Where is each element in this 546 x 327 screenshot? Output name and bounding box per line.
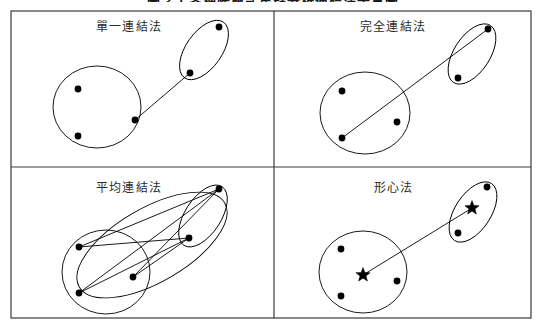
- cluster-outline-a-average-linkage: [62, 230, 150, 314]
- data-point-a-single-linkage: [75, 133, 82, 140]
- panel-label-centroid-method: 形心法: [374, 178, 414, 196]
- data-point-b-average-linkage: [186, 235, 193, 242]
- cluster-outline-a-complete-linkage: [320, 72, 410, 154]
- data-point-b-single-linkage: [187, 70, 194, 77]
- data-point-a-average-linkage: [76, 290, 83, 297]
- data-point-b-complete-linkage: [455, 75, 462, 82]
- data-point-a-single-linkage: [132, 117, 139, 124]
- data-point-b-single-linkage: [216, 24, 223, 31]
- panel-label-average-linkage: 平均連結法: [96, 178, 162, 196]
- data-point-b-centroid-method: [455, 230, 462, 237]
- data-point-b-centroid-method: [484, 184, 491, 191]
- data-point-a-centroid-method: [338, 246, 345, 253]
- data-point-a-complete-linkage: [339, 88, 346, 95]
- linkage-line-single-linkage: [135, 73, 190, 120]
- data-point-a-average-linkage: [130, 274, 137, 281]
- data-point-b-average-linkage: [216, 186, 223, 193]
- data-point-a-centroid-method: [394, 278, 401, 285]
- panel-label-complete-linkage: 完全連結法: [360, 17, 426, 35]
- cluster-outline-b-single-linkage: [170, 12, 238, 88]
- cluster-outline-a-single-linkage: [53, 66, 141, 148]
- linkage-line-average-linkage: [133, 189, 219, 277]
- data-point-a-complete-linkage: [339, 135, 346, 142]
- centroid-star-marker: [356, 268, 370, 282]
- figure-outer-frame: [11, 11, 531, 318]
- centroid-star-marker: [465, 201, 479, 215]
- linkage-line-complete-linkage: [342, 29, 488, 138]
- linkage-line-average-linkage: [79, 238, 189, 293]
- data-point-b-complete-linkage: [485, 26, 492, 33]
- data-point-a-centroid-method: [338, 293, 345, 300]
- data-point-a-complete-linkage: [394, 119, 401, 126]
- linkage-line-average-linkage: [79, 189, 219, 247]
- cluster-outline-b-complete-linkage: [438, 16, 505, 93]
- linkage-diagram-svg: [0, 0, 546, 327]
- data-point-a-average-linkage: [76, 244, 83, 251]
- figure-root: 圖 3-1 各種階層式集群分析連結法示意圖 單一連結法 完全連結法 平均連結法 …: [0, 0, 546, 327]
- panel-label-single-linkage: 單一連結法: [96, 17, 162, 35]
- data-point-a-single-linkage: [75, 86, 82, 93]
